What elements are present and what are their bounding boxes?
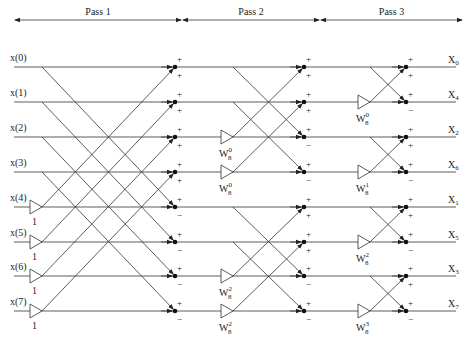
sum-node (404, 135, 409, 140)
sum-node (173, 100, 178, 105)
sign-bottom: + (408, 279, 413, 289)
input-label-1: x(1) (10, 87, 27, 99)
input-label-4: x(4) (10, 192, 27, 204)
twiddle-label: W28 (219, 320, 232, 336)
sign-top: + (408, 194, 413, 204)
sign-top: + (408, 159, 413, 169)
sign-bottom: − (177, 314, 182, 324)
sign-top: + (177, 298, 182, 308)
p1-cross-down (42, 137, 173, 274)
sign-bottom: + (408, 140, 413, 150)
sign-bottom: + (408, 70, 413, 80)
twiddle-label: W28 (356, 251, 369, 267)
sum-node (302, 309, 307, 314)
multiplier-triangle (30, 269, 42, 283)
fft-flow-graph: Pass 1Pass 2Pass 3 1111W08W08W28W28W08W1… (0, 0, 474, 341)
sum-node (404, 309, 409, 314)
multiplier-label: 1 (32, 251, 37, 262)
twiddle-triangle (221, 269, 233, 283)
p2-cross-up (233, 104, 302, 172)
sum-node (173, 274, 178, 279)
sign-bottom: − (408, 314, 413, 324)
sign-bottom: − (177, 210, 182, 220)
sign-top: + (306, 298, 311, 308)
sign-top: + (306, 194, 311, 204)
p2-cross-down (233, 67, 302, 135)
twiddle-triangle (358, 165, 370, 179)
twiddle-triangle (221, 130, 233, 144)
twiddle-triangle (221, 165, 233, 179)
sign-top: + (306, 54, 311, 64)
labels: 1111W08W08W28W28W08W18W28W38x(0)x(1)x(2)… (10, 52, 459, 336)
output-label-5: X5 (448, 229, 459, 242)
sum-node (302, 65, 307, 70)
sign-top: + (408, 89, 413, 99)
sum-node (302, 170, 307, 175)
output-label-6: X3 (448, 263, 459, 276)
sign-top: + (177, 159, 182, 169)
twiddle-triangle (221, 304, 233, 318)
sum-node (302, 205, 307, 210)
sign-top: + (177, 194, 182, 204)
output-label-1: X4 (448, 89, 459, 102)
multiplier-triangle (30, 235, 42, 249)
p3-cross-up (370, 139, 404, 172)
p2-cross-down (233, 207, 302, 274)
multiplier-triangle (30, 304, 42, 318)
sign-top: + (408, 263, 413, 273)
output-label-7: X7 (448, 298, 459, 311)
sign-top: + (408, 298, 413, 308)
sign-top: + (306, 124, 311, 134)
p1-cross-down (42, 172, 173, 309)
multiplier-triangle (30, 200, 42, 214)
sign-bottom: + (177, 105, 182, 115)
sign-bottom: − (408, 245, 413, 255)
twiddle-label: W08 (356, 111, 369, 127)
sign-top: + (306, 229, 311, 239)
sum-node (173, 205, 178, 210)
input-label-5: x(5) (10, 227, 27, 239)
sign-bottom: + (306, 105, 311, 115)
input-label-3: x(3) (10, 157, 27, 169)
sign-bottom: + (306, 210, 311, 220)
twiddle-triangle (358, 95, 370, 109)
sign-top: + (177, 229, 182, 239)
pass-headers: Pass 1Pass 2Pass 3 (15, 6, 462, 20)
sum-node (173, 309, 178, 314)
sign-top: + (177, 263, 182, 273)
twiddle-label: W28 (219, 285, 232, 301)
sign-top: + (177, 54, 182, 64)
p3-cross-up (370, 209, 404, 242)
p2-cross-down (233, 102, 302, 170)
p2-cross-up (233, 244, 302, 311)
input-label-7: x(7) (10, 296, 27, 308)
sign-bottom: − (306, 175, 311, 185)
pass-3-label: Pass 3 (379, 6, 404, 17)
multiplier-label: 1 (32, 285, 37, 296)
p3-cross-up (370, 278, 404, 311)
sign-bottom: − (177, 245, 182, 255)
pass-1-label: Pass 1 (85, 6, 110, 17)
p1-cross-down (42, 102, 173, 240)
sign-top: + (177, 89, 182, 99)
p2-cross-up (233, 69, 302, 137)
pass-2-label: Pass 2 (238, 6, 263, 17)
p1-cross-down (42, 67, 173, 205)
sign-top: + (408, 229, 413, 239)
p3-cross-down (370, 67, 404, 100)
output-label-0: X0 (448, 54, 459, 67)
twiddle-label: W08 (219, 181, 232, 197)
input-label-0: x(0) (10, 52, 27, 64)
sign-bottom: + (408, 210, 413, 220)
sum-node (302, 240, 307, 245)
sign-top: + (306, 263, 311, 273)
sign-top: + (408, 124, 413, 134)
sign-bottom: + (306, 245, 311, 255)
sum-node (404, 170, 409, 175)
sum-node (404, 274, 409, 279)
output-label-3: X6 (448, 159, 459, 172)
p3-cross-up (370, 69, 404, 102)
sum-node (302, 100, 307, 105)
p1-cross-up (42, 174, 173, 311)
output-label-4: X1 (448, 194, 459, 207)
